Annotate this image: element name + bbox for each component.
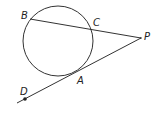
point-p-dot [140,37,142,39]
label-a: A [76,75,84,86]
label-c: C [93,17,100,28]
secant-line-bp [30,19,141,38]
label-d: D [20,86,28,97]
label-b: B [21,10,28,21]
circle [23,6,93,76]
tangent-line-pd [17,38,141,103]
geometry-diagram: B C P A D [0,0,157,114]
label-p: P [144,31,151,42]
point-d-dot [23,97,27,101]
